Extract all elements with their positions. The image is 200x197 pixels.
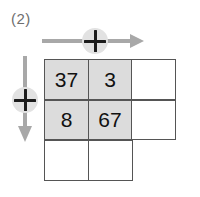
grid-cell-r2c1[interactable]: 8 [44, 100, 89, 141]
grid-cell-r1c1[interactable]: 37 [44, 59, 89, 100]
grid-cell-r3c1[interactable] [44, 140, 89, 181]
grid-cell-r2c2[interactable]: 67 [88, 100, 133, 141]
worksheet-problem: (2) 37 3 8 67 [0, 0, 200, 197]
grid-cell-r1c3[interactable] [131, 59, 176, 100]
grid-cell-r3c2[interactable] [88, 140, 133, 181]
number-grid: 37 3 8 67 [44, 59, 179, 181]
grid-row [44, 140, 179, 181]
grid-cell-r1c2[interactable]: 3 [88, 59, 133, 100]
top-plus-operator-icon [82, 28, 108, 54]
grid-cell-r2c3[interactable] [131, 100, 176, 141]
plus-icon [84, 30, 106, 52]
plus-icon [14, 89, 36, 111]
grid-cell-r3c3 [131, 140, 176, 181]
grid-row: 37 3 [44, 59, 179, 100]
problem-number-label: (2) [11, 10, 31, 27]
left-plus-operator-icon [12, 87, 38, 113]
grid-row: 8 67 [44, 100, 179, 141]
